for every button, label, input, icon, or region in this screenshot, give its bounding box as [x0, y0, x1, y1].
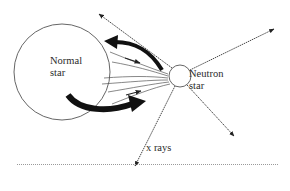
xray-beam-lower-right: [187, 85, 234, 136]
xray-beams: [99, 14, 274, 166]
neutron-star-label-line1: Neutron: [189, 68, 224, 79]
accretion-stream: [102, 52, 170, 104]
neutron-star-circle: [169, 65, 191, 87]
normal-star-label-line2: star: [50, 67, 66, 78]
dotted-separator: [17, 164, 278, 165]
binary-star-diagram: Normal star Neutron star x rays: [0, 0, 290, 191]
neutron-star-label-line2: star: [189, 80, 205, 91]
flow-arrow-lower: [126, 91, 141, 95]
flow-arrow-upper: [125, 58, 140, 63]
orbital-arrow-top: [115, 42, 162, 70]
xray-label: x rays: [146, 142, 171, 153]
xray-beam-upper-right: [190, 29, 274, 70]
normal-star-label-line1: Normal: [50, 55, 82, 66]
orbital-arrow-bottom: [68, 95, 132, 109]
xray-beam-lower-left: [135, 86, 175, 166]
